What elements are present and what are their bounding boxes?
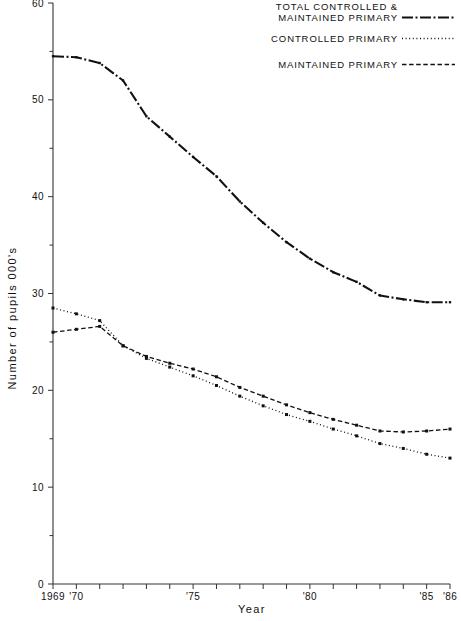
data-point xyxy=(98,325,101,328)
data-point xyxy=(285,241,287,243)
data-point xyxy=(192,374,195,377)
x-tick-label-1985: '85 xyxy=(420,591,434,602)
data-point xyxy=(52,307,55,310)
data-point xyxy=(285,413,288,416)
data-point xyxy=(355,434,358,437)
data-point xyxy=(52,55,54,57)
series-2 xyxy=(52,325,452,434)
data-point xyxy=(378,430,381,433)
y-axis-ticks xyxy=(48,3,53,584)
data-point xyxy=(215,175,217,177)
axes-group xyxy=(53,3,450,584)
data-point xyxy=(402,430,405,433)
data-point xyxy=(308,420,311,423)
x-axis-ticks xyxy=(53,584,450,589)
series-line-0 xyxy=(53,56,450,302)
data-point xyxy=(75,312,78,315)
data-point xyxy=(262,404,265,407)
data-point xyxy=(262,395,265,398)
data-point xyxy=(238,395,241,398)
data-point xyxy=(355,281,357,283)
data-point xyxy=(379,294,381,296)
data-point xyxy=(308,411,311,414)
legend-label-line2: MAINTAINED PRIMARY xyxy=(278,12,398,23)
x-tick-label-1980: '80 xyxy=(303,591,317,602)
series-line-2 xyxy=(53,326,450,432)
data-point xyxy=(192,368,195,371)
x-tick-label-1975: '75 xyxy=(186,591,200,602)
data-point xyxy=(192,156,194,158)
legend-item-1: CONTROLLED PRIMARY xyxy=(271,33,455,44)
y-axis-tick-labels: 0102030405060 xyxy=(32,0,44,590)
chart-legend: TOTAL CONTROLLED &MAINTAINED PRIMARYCONT… xyxy=(271,1,455,70)
data-point xyxy=(168,366,171,369)
data-point xyxy=(215,384,218,387)
data-point xyxy=(145,355,148,358)
data-point xyxy=(262,222,264,224)
data-point xyxy=(98,319,101,322)
line-chart-svg: 0102030405060 1969'70'75'80'85'86 Year N… xyxy=(0,0,461,621)
data-point xyxy=(426,301,428,303)
data-point xyxy=(168,362,171,365)
y-tick-label-20: 20 xyxy=(32,385,44,396)
y-tick-label-50: 50 xyxy=(32,94,44,105)
y-tick-label-60: 60 xyxy=(32,0,44,9)
data-point xyxy=(355,424,358,427)
series-0 xyxy=(52,55,451,303)
legend-label: TOTAL CONTROLLED & xyxy=(276,1,398,12)
data-point xyxy=(449,428,452,431)
data-point xyxy=(425,453,428,456)
data-point xyxy=(239,200,241,202)
data-point xyxy=(75,328,78,331)
series-line-1 xyxy=(53,308,450,458)
data-point xyxy=(332,428,335,431)
x-axis-tick-labels: 1969'70'75'80'85'86 xyxy=(41,591,457,602)
data-point xyxy=(449,457,452,460)
data-point xyxy=(122,344,125,347)
x-tick-label-1986: '86 xyxy=(443,591,457,602)
x-tick-label-1970: '70 xyxy=(69,591,83,602)
data-series-group xyxy=(52,55,452,460)
data-point xyxy=(75,56,77,58)
x-tick-label-1969: 1969 xyxy=(41,591,65,602)
data-point xyxy=(169,135,171,137)
data-point xyxy=(378,442,381,445)
legend-label: MAINTAINED PRIMARY xyxy=(278,59,398,70)
data-point xyxy=(425,430,428,433)
series-1 xyxy=(52,307,452,460)
y-tick-label-40: 40 xyxy=(32,191,44,202)
y-tick-label-0: 0 xyxy=(38,579,44,590)
data-point xyxy=(449,301,451,303)
data-point xyxy=(309,257,311,259)
data-point xyxy=(332,271,334,273)
chart-figure: 0102030405060 1969'70'75'80'85'86 Year N… xyxy=(0,0,461,621)
legend-item-2: MAINTAINED PRIMARY xyxy=(278,59,455,70)
data-point xyxy=(238,386,241,389)
data-point xyxy=(285,403,288,406)
legend-label: CONTROLLED PRIMARY xyxy=(271,33,398,44)
y-axis-title: Number of pupils 000's xyxy=(6,247,18,390)
data-point xyxy=(145,115,147,117)
data-point xyxy=(122,79,124,81)
x-axis-title: Year xyxy=(238,603,266,615)
data-point xyxy=(402,298,404,300)
data-point xyxy=(402,447,405,450)
data-point xyxy=(332,418,335,421)
data-point xyxy=(52,331,55,334)
y-tick-label-30: 30 xyxy=(32,288,44,299)
data-point xyxy=(99,62,101,64)
legend-item-0: TOTAL CONTROLLED &MAINTAINED PRIMARY xyxy=(276,1,455,23)
y-tick-label-10: 10 xyxy=(32,482,44,493)
data-point xyxy=(215,375,218,378)
